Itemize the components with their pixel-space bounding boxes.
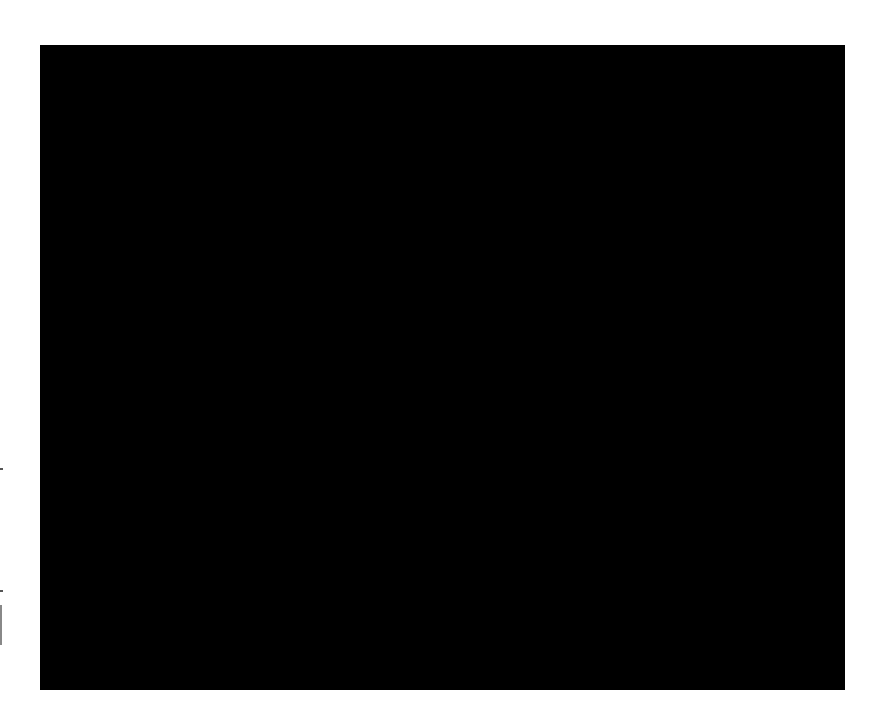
seminiferous-tubule-diagram [0, 0, 875, 718]
page-edge-mark [0, 605, 2, 645]
page-edge-mark [0, 468, 3, 470]
page-edge-mark [0, 590, 3, 592]
interstitial-tissue [40, 45, 845, 690]
